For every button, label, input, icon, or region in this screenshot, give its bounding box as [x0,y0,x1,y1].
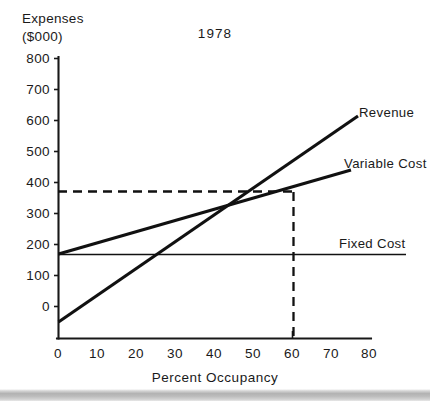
y-tick-label-100: 100 [26,268,50,283]
series-line-variable-cost [59,170,352,254]
chart-canvas: 1978 Expenses ($000) 800 700 600 500 400… [0,0,430,401]
y-tick-label-400: 400 [26,175,50,190]
x-tick-label-10: 10 [89,346,105,361]
x-tick-label-50: 50 [245,346,261,361]
series-line-revenue [59,116,359,322]
series-label-revenue: Revenue [359,105,414,120]
x-tick-label-40: 40 [206,346,222,361]
series-label-fixed-cost: Fixed Cost [339,236,406,251]
y-tick-label-700: 700 [26,82,50,97]
y-tick-label-0: 0 [42,299,50,314]
y-axis-title-line1: Expenses [22,11,84,26]
x-tick-label-80: 80 [361,346,377,361]
chart-title: 1978 [198,26,232,41]
y-tick-label-800: 800 [26,51,50,66]
scan-edge-band [0,389,430,401]
x-tick-label-60: 60 [284,346,300,361]
x-tick-label-70: 70 [323,346,339,361]
y-tick-label-500: 500 [26,144,50,159]
breakeven-chart: 1978 Expenses ($000) 800 700 600 500 400… [0,0,430,401]
x-tick-label-20: 20 [128,346,144,361]
y-tick-label-300: 300 [26,206,50,221]
y-tick-label-200: 200 [26,237,50,252]
x-tick-label-30: 30 [167,346,183,361]
series-label-variable-cost: Variable Cost [344,156,427,171]
x-tick-label-0: 0 [54,346,62,361]
y-axis-title-line2: ($000) [22,29,63,44]
y-tick-label-600: 600 [26,113,50,128]
x-axis-title: Percent Occupancy [152,370,278,385]
